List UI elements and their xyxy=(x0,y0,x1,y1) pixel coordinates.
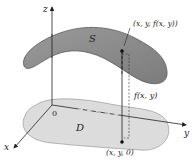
height-label: f(x, y) xyxy=(133,91,157,100)
region-label: D xyxy=(75,122,84,133)
surface-over-region-diagram: z 0 x y S D (x, y, f(x, y)) (x, y, 0) f(… xyxy=(0,0,194,160)
bottom-point-label: (x, y, 0) xyxy=(106,148,134,157)
point-on-surface xyxy=(120,49,124,53)
surface-label: S xyxy=(89,33,96,44)
top-point-label: (x, y, f(x, y)) xyxy=(133,19,178,28)
x-axis-label: x xyxy=(4,142,9,152)
point-in-region xyxy=(120,140,124,144)
region-d xyxy=(23,99,169,150)
y-axis-label: y xyxy=(183,128,190,138)
origin-label: 0 xyxy=(52,109,57,118)
z-axis-label: z xyxy=(42,4,48,14)
